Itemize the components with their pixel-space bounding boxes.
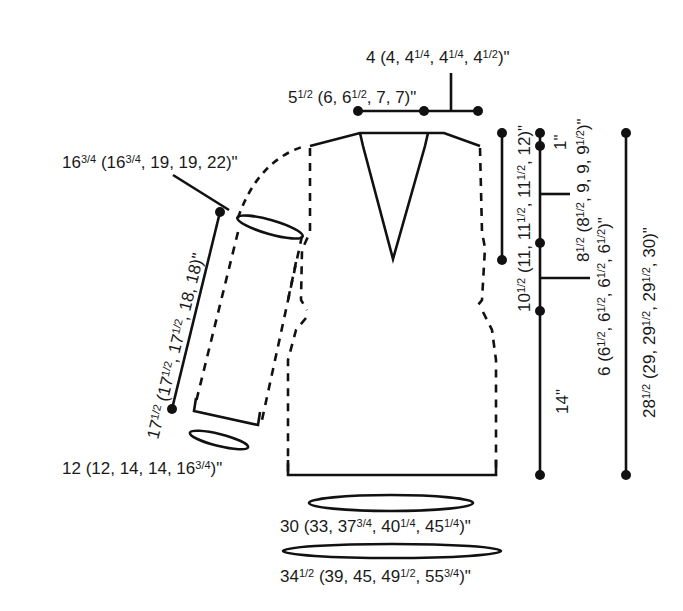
underarm-edge (288, 262, 296, 300)
hem-ellipse (309, 495, 473, 511)
sweater-schematic: 4 (4, 41/4, 41/4, 41/2)" 51/2 (6, 61/2, … (0, 0, 683, 611)
upper-arm-ellipse (235, 211, 304, 243)
sleeve-cap (238, 146, 305, 218)
armhole-lower-label: 6 (61/2, 61/2, 61/2, 61/2)" (595, 217, 614, 376)
neck-depth-label: 101/2 (11, 111/2, 111/2, 12)" (515, 125, 534, 312)
hem-line (288, 460, 496, 475)
left-side-seam (288, 318, 306, 475)
cuff-ellipse (188, 427, 249, 453)
sweater-body (288, 133, 496, 475)
back-neck-label: 4 (4, 41/4, 41/4, 41/2)" (366, 48, 510, 67)
total-length-label: 281/2 (29, 291/2, 291/2, 30)" (640, 227, 659, 418)
left-armhole (301, 148, 310, 310)
hem-label: 30 (33, 373/4, 401/4, 451/4)" (280, 517, 471, 536)
shoulder-line (310, 133, 480, 146)
shoulder-label: 51/2 (6, 61/2, 7, 7)" (288, 88, 416, 107)
upper-arm-label: 163/4 (163/4, 19, 19, 22)" (62, 153, 238, 172)
body-to-armhole-label: 14" (553, 389, 572, 414)
chest-ellipse (283, 544, 501, 558)
right-armhole (478, 148, 485, 305)
v-neck (360, 133, 428, 259)
armhole-upper-label: 81/2 (81/2, 9, 9, 91/2)" (574, 118, 593, 262)
chest-label: 341/2 (39, 45, 491/2, 553/4)" (280, 567, 471, 586)
right-side-seam (483, 312, 496, 475)
upper-arm-leader (173, 175, 229, 210)
cuff-label: 12 (12, 14, 14, 163/4)" (62, 459, 222, 478)
shoulder-slope-label: 1" (551, 135, 570, 151)
cuff-line (194, 398, 260, 425)
